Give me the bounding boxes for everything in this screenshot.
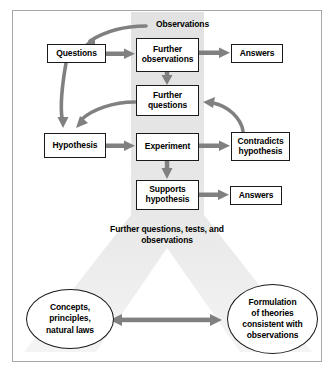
label-observations: Observations xyxy=(135,19,230,30)
node-hypothesis[interactable]: Hypothesis xyxy=(44,133,106,158)
arrow-questions-to-hypothesis xyxy=(58,63,69,128)
node-experiment[interactable]: Experiment xyxy=(136,133,199,161)
label-further-questions-tests-observations: Further questions, tests, and observatio… xyxy=(97,224,237,245)
node-supports-hypothesis[interactable]: Supports hypothesis xyxy=(136,180,199,210)
ellipse-concepts-principles-natural-laws[interactable]: Concepts, principles, natural laws xyxy=(26,289,114,349)
node-further-observations[interactable]: Further observations xyxy=(136,38,199,72)
arrow-questions-to-further-observations xyxy=(106,49,135,59)
node-questions[interactable]: Questions xyxy=(47,44,106,63)
arrow-further-questions-to-hypothesis xyxy=(76,102,135,128)
diagram-canvas: Questions Further observations Answers F… xyxy=(0,0,334,372)
arrow-hypothesis-to-experiment xyxy=(106,141,135,151)
node-contradicts-hypothesis[interactable]: Contradicts hypothesis xyxy=(231,132,290,161)
node-further-questions[interactable]: Further questions xyxy=(136,85,199,116)
arrow-concepts-formulation-bidirectional xyxy=(110,314,222,326)
node-answers-bottom[interactable]: Answers xyxy=(230,186,282,205)
node-answers-top[interactable]: Answers xyxy=(231,44,283,63)
ellipse-formulation-of-theories[interactable]: Formulation of theories consistent with … xyxy=(227,284,318,354)
arrow-contradicts-to-further-questions xyxy=(203,97,243,131)
